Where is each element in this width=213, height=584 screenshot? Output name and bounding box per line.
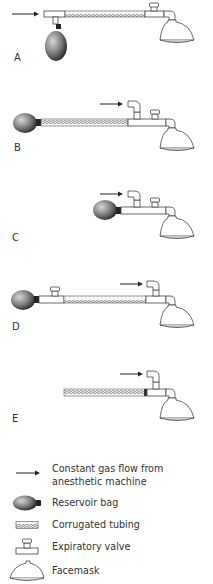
legend-label-facemask: Facemask bbox=[52, 565, 99, 577]
legend-item-facemask: Facemask bbox=[0, 559, 213, 583]
panel-label-d: D bbox=[12, 321, 20, 332]
panel-label-e: E bbox=[12, 413, 18, 424]
facemask-icon bbox=[160, 128, 194, 148]
legend-label-expiratory-valve: Expiratory valve bbox=[52, 541, 130, 553]
legend-label-gas-flow-2: anesthetic machine bbox=[52, 476, 147, 488]
expiratory-valve-icon bbox=[151, 198, 160, 207]
panel-c: C bbox=[0, 180, 213, 270]
t-piece bbox=[44, 11, 65, 24]
arrow-icon bbox=[10, 466, 44, 480]
facemask-icon bbox=[160, 20, 194, 40]
facemask-icon bbox=[160, 398, 194, 418]
legend-label-reservoir-bag: Reservoir bag bbox=[52, 497, 118, 509]
expiratory-valve-icon bbox=[10, 537, 44, 557]
fresh-gas-inlet bbox=[128, 101, 140, 119]
gas-flow-arrow-icon bbox=[100, 192, 123, 197]
reservoir-bag-icon bbox=[11, 290, 35, 310]
corrugated-tubing-icon bbox=[65, 11, 145, 17]
reservoir-bag-icon bbox=[13, 113, 37, 133]
corrugated-tubing-icon bbox=[64, 296, 146, 303]
fresh-gas-inlet bbox=[128, 191, 140, 207]
facemask-icon bbox=[6, 559, 46, 583]
corrugated-tubing-icon bbox=[41, 119, 128, 126]
legend-label-corrugated-tubing: Corrugated tubing bbox=[52, 519, 140, 531]
reservoir-bag-icon bbox=[93, 200, 117, 220]
corrugated-tubing-icon bbox=[10, 518, 44, 532]
gas-flow-arrow-icon bbox=[120, 282, 143, 287]
legend-item-corrugated-tubing: Corrugated tubing bbox=[0, 518, 213, 532]
panel-label-a: A bbox=[14, 52, 21, 63]
legend-item-expiratory-valve: Expiratory valve bbox=[0, 537, 213, 557]
legend-label-gas-flow-1: Constant gas flow from bbox=[52, 463, 163, 475]
panel-a: A bbox=[0, 0, 213, 90]
panel-label-b: B bbox=[14, 142, 21, 153]
panel-d: D bbox=[0, 270, 213, 360]
gas-flow-arrow-icon bbox=[12, 12, 39, 17]
facemask-icon bbox=[160, 305, 194, 325]
fresh-gas-inlet bbox=[147, 371, 159, 389]
reservoir-bag-icon bbox=[10, 495, 44, 511]
expiratory-valve-icon bbox=[151, 110, 160, 119]
expiratory-valve-icon bbox=[145, 3, 164, 17]
gas-flow-arrow-icon bbox=[100, 102, 123, 107]
legend-item-reservoir-bag: Reservoir bag bbox=[0, 495, 213, 511]
reservoir-bag-icon bbox=[45, 31, 67, 61]
panel-label-c: C bbox=[12, 232, 19, 243]
gas-flow-arrow-icon bbox=[120, 372, 143, 377]
fresh-gas-inlet bbox=[147, 281, 159, 296]
facemask-icon bbox=[160, 216, 194, 236]
legend-item-gas-flow: Constant gas flow from anesthetic machin… bbox=[0, 463, 213, 489]
panel-b: B bbox=[0, 90, 213, 180]
corrugated-tubing-icon bbox=[64, 389, 146, 396]
panel-e: E bbox=[0, 360, 213, 450]
expiratory-valve-icon bbox=[51, 287, 60, 296]
